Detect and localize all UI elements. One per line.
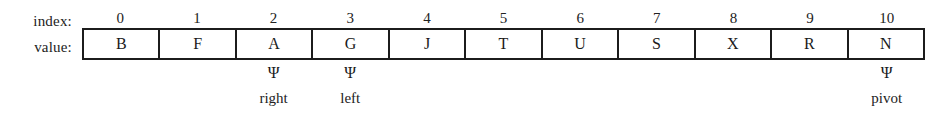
value-cell: S [619, 30, 695, 58]
pointer-slot-10: Ψ pivot [848, 62, 925, 116]
psi-pointer-icon: Ψ [312, 62, 389, 84]
value-row-label: value: [2, 40, 72, 55]
index-row-label: index: [2, 14, 72, 29]
value-cell: R [772, 30, 848, 58]
value-cell: X [696, 30, 772, 58]
value-row: B F A G J T U S X R N [82, 28, 925, 60]
value-cell: B [84, 30, 160, 58]
pointer-slot-6 [542, 62, 619, 116]
psi-pointer-icon: Ψ [235, 62, 312, 84]
value-cell: G [313, 30, 389, 58]
pointer-row: Ψ right Ψ left [82, 62, 925, 116]
pointer-slot-3: Ψ left [312, 62, 389, 116]
index-cell: 4 [389, 8, 466, 28]
pointer-slot-5 [465, 62, 542, 116]
index-cell: 7 [618, 8, 695, 28]
pointer-slot-4 [389, 62, 466, 116]
index-cell: 2 [235, 8, 312, 28]
pointer-slot-1 [159, 62, 236, 116]
pointer-label-pivot: pivot [848, 88, 925, 108]
value-cell: N [849, 30, 923, 58]
pointer-label-left: left [312, 88, 389, 108]
psi-pointer-icon: Ψ [848, 62, 925, 84]
index-row: 0 1 2 3 4 5 6 7 8 9 10 [82, 8, 925, 28]
index-cell: 10 [848, 8, 925, 28]
pointer-label-right: right [235, 88, 312, 108]
pointer-slot-7 [618, 62, 695, 116]
pointer-slot-9 [772, 62, 849, 116]
pointer-slot-0 [82, 62, 159, 116]
value-cell: J [390, 30, 466, 58]
index-cell: 9 [772, 8, 849, 28]
value-cell: U [543, 30, 619, 58]
array-diagram: index: value: 0 1 2 3 4 5 6 7 8 9 10 B F… [0, 0, 943, 116]
index-cell: 0 [82, 8, 159, 28]
index-cell: 8 [695, 8, 772, 28]
value-cell: F [160, 30, 236, 58]
index-cell: 3 [312, 8, 389, 28]
array-table: 0 1 2 3 4 5 6 7 8 9 10 B F A G J T U S X… [82, 8, 925, 60]
index-cell: 6 [542, 8, 619, 28]
index-cell: 5 [465, 8, 542, 28]
value-cell: A [237, 30, 313, 58]
value-cell: T [466, 30, 542, 58]
pointer-slot-8 [695, 62, 772, 116]
index-cell: 1 [159, 8, 236, 28]
pointer-slot-2: Ψ right [235, 62, 312, 116]
